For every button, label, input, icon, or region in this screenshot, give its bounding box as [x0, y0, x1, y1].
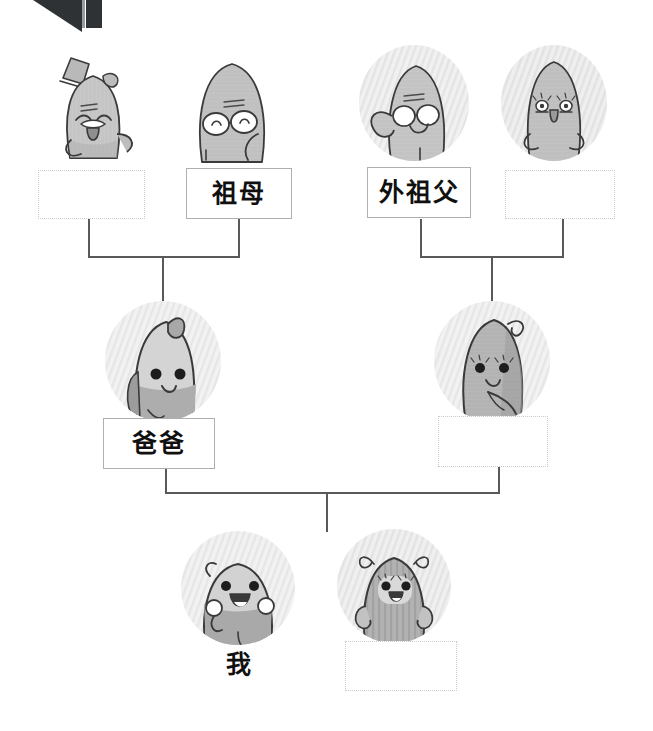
avatar-mother — [432, 300, 552, 422]
wedge-bar — [86, 0, 102, 28]
avatar-paternal-grandmother — [186, 50, 282, 166]
name-label-father: 爸爸 — [132, 431, 186, 456]
avatar-maternal-grandfather — [358, 44, 470, 162]
name-box-maternal-grandfather[interactable]: 外祖父 — [367, 167, 471, 218]
connector-paternal-crossbar — [88, 256, 240, 258]
name-box-mother[interactable] — [438, 416, 548, 467]
connector-maternal-grandmother-stub — [562, 219, 564, 257]
wedge-shape — [30, 0, 82, 32]
avatar-father — [104, 300, 222, 422]
avatar-maternal-grandmother — [500, 44, 608, 162]
name-box-maternal-grandmother[interactable] — [505, 170, 615, 219]
connector-parents-crossbar — [165, 492, 500, 494]
connector-father-stub — [165, 469, 167, 493]
page-corner-wedge-artifact — [30, 0, 104, 32]
name-label-self: 我 — [196, 652, 280, 677]
name-box-paternal-grandfather[interactable] — [38, 170, 145, 219]
name-box-sibling[interactable] — [345, 641, 457, 691]
connector-maternal-grandfather-stub — [420, 219, 422, 257]
name-box-paternal-grandmother[interactable]: 祖母 — [186, 168, 292, 219]
connector-drop-to-children — [326, 492, 328, 532]
connector-paternal-grandmother-stub — [238, 219, 240, 257]
avatar-paternal-grandfather — [45, 48, 145, 166]
name-label-paternal-grandmother: 祖母 — [212, 181, 266, 206]
name-box-father[interactable]: 爸爸 — [103, 418, 215, 469]
avatar-self — [180, 530, 296, 646]
name-label-maternal-grandfather: 外祖父 — [379, 180, 460, 205]
connector-paternal-grandfather-stub — [88, 219, 90, 257]
family-tree-page: 祖母 外祖父 — [0, 0, 653, 731]
connector-paternal-drop-to-father — [162, 256, 164, 302]
wedge-slit — [82, 0, 85, 28]
connector-maternal-drop-to-mother — [491, 256, 493, 302]
avatar-sibling — [336, 528, 452, 644]
connector-mother-stub — [498, 467, 500, 493]
